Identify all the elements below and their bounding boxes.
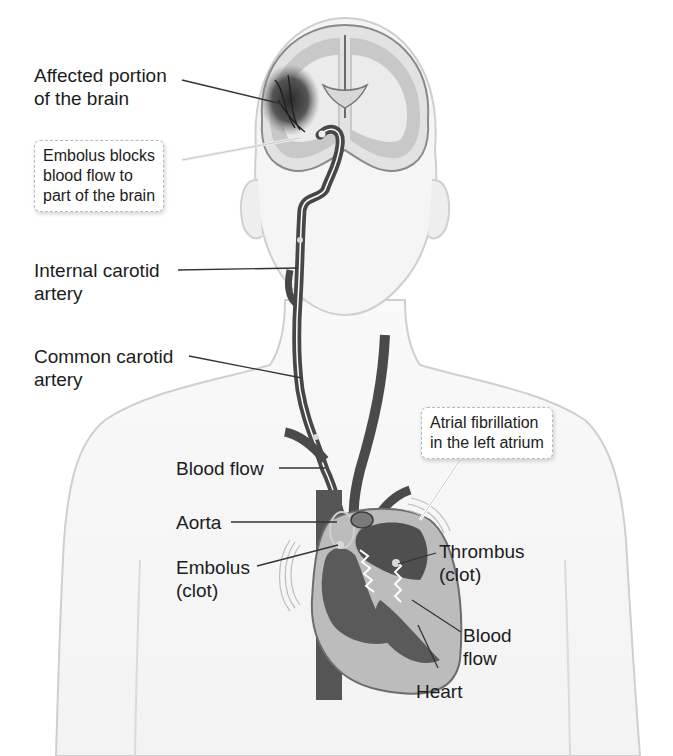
label-blood-flow-artery: Blood flow xyxy=(176,457,264,480)
label-line: of the brain xyxy=(34,87,167,110)
callout-line: blood flow to xyxy=(43,166,155,186)
label-heart: Heart xyxy=(416,680,462,703)
label-affected-portion-of-brain: Affected portion of the brain xyxy=(34,64,167,110)
callout-line: Atrial fibrillation xyxy=(430,413,544,433)
label-line: Aorta xyxy=(176,511,221,534)
label-line: Heart xyxy=(416,680,462,703)
label-line: artery xyxy=(34,282,160,305)
label-blood-flow-heart: Blood flow xyxy=(463,624,512,670)
callout-line: in the left atrium xyxy=(430,433,544,453)
label-line: Blood xyxy=(463,624,512,647)
label-line: Blood flow xyxy=(176,457,264,480)
label-line: Embolus xyxy=(176,556,250,579)
callout-embolus-blocks-blood-flow: Embolus blocks blood flow to part of the… xyxy=(34,140,164,212)
label-thrombus-clot: Thrombus (clot) xyxy=(439,540,525,586)
label-line: Common carotid xyxy=(34,345,173,368)
callout-line: part of the brain xyxy=(43,186,155,206)
callout-atrial-fibrillation: Atrial fibrillation in the left atrium xyxy=(421,407,553,459)
label-line: Internal carotid xyxy=(34,259,160,282)
label-line: Affected portion xyxy=(34,64,167,87)
label-internal-carotid-artery: Internal carotid artery xyxy=(34,259,160,305)
callout-line: Embolus blocks xyxy=(43,146,155,166)
label-line: artery xyxy=(34,368,173,391)
label-line: flow xyxy=(463,647,512,670)
label-common-carotid-artery: Common carotid artery xyxy=(34,345,173,391)
label-embolus-clot: Embolus (clot) xyxy=(176,556,250,602)
label-aorta: Aorta xyxy=(176,511,221,534)
label-line: Thrombus xyxy=(439,540,525,563)
label-line: (clot) xyxy=(176,579,250,602)
label-line: (clot) xyxy=(439,563,525,586)
